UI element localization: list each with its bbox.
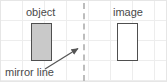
image-rectangle bbox=[117, 23, 138, 61]
mirror-line-label: mirror line bbox=[5, 66, 54, 78]
object-label: object bbox=[26, 6, 55, 18]
reflection-diagram: object image mirror line bbox=[0, 0, 167, 82]
image-label: image bbox=[113, 6, 143, 18]
